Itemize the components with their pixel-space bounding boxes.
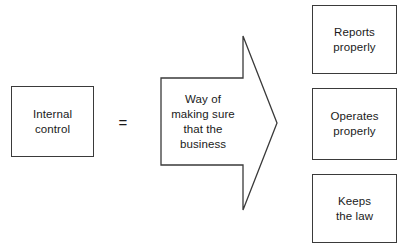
internal-control-label: Internal control bbox=[33, 107, 72, 136]
outcome-box-keeps-the-law: Keeps the law bbox=[312, 174, 397, 243]
outcome-box-reports-properly: Reports properly bbox=[312, 5, 397, 74]
internal-control-box: Internal control bbox=[11, 86, 94, 157]
outcome-label-1: Operates properly bbox=[330, 109, 378, 138]
definition-arrow-label: Way of making sure that the business bbox=[163, 86, 243, 158]
equals-sign: = bbox=[113, 111, 133, 133]
outcome-label-2: Keeps the law bbox=[336, 194, 373, 223]
outcome-box-operates-properly: Operates properly bbox=[312, 88, 397, 160]
diagram-canvas: Internal control = Way of making sure th… bbox=[0, 0, 405, 247]
outcome-label-0: Reports properly bbox=[333, 25, 375, 54]
